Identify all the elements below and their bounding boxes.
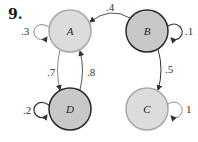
edge-label-a-d: .7: [47, 66, 56, 78]
edge-label-d-d: .2: [23, 104, 31, 116]
edge-b-self-loop: .1: [168, 24, 193, 39]
diagram-canvas: .4 .7 .8 .5 .3 .1 .2: [0, 0, 198, 142]
edge-b-to-c: .5: [158, 49, 174, 90]
edge-d-to-a: .8: [80, 51, 96, 90]
edge-label-b-b: .1: [185, 25, 193, 37]
edge-label-b-c: .5: [165, 63, 174, 75]
node-label-d: D: [65, 103, 74, 115]
problem-number: 9.: [8, 6, 23, 22]
edge-label-b-a: .4: [106, 1, 115, 13]
edge-b-to-a: .4: [90, 1, 130, 22]
node-a: A: [49, 10, 91, 52]
edge-label-a-a: .3: [21, 25, 30, 37]
node-label-c: C: [143, 103, 151, 115]
edge-label-c-c: 1: [186, 103, 192, 115]
node-c: C: [126, 88, 168, 130]
node-label-a: A: [66, 25, 74, 37]
node-label-b: B: [144, 25, 151, 37]
edge-a-self-loop: .3: [21, 25, 49, 40]
markov-chain-diagram: 9. .4 .7 .8 .5 .3: [0, 0, 198, 142]
edge-label-d-a: .8: [87, 66, 96, 78]
node-b: B: [126, 10, 168, 52]
edge-d-self-loop: .2: [23, 103, 49, 118]
edge-c-self-loop: 1: [168, 102, 192, 117]
node-d: D: [49, 88, 91, 130]
edge-a-to-d: .7: [47, 50, 60, 90]
